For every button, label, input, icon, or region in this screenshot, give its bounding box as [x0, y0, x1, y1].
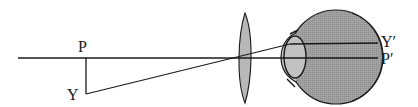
label-Y: Y — [67, 86, 79, 103]
optics-diagram: P Y Y′ P′ — [0, 0, 418, 107]
label-P: P — [78, 38, 87, 55]
crystalline-lens — [284, 36, 306, 78]
label-P-prime: P′ — [381, 50, 393, 67]
chief-ray-incident — [86, 44, 290, 94]
label-Y-prime: Y′ — [381, 33, 396, 50]
